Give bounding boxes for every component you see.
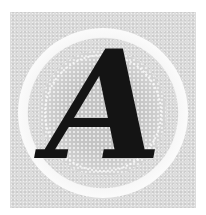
- drop-cap-letter: A: [34, 30, 174, 180]
